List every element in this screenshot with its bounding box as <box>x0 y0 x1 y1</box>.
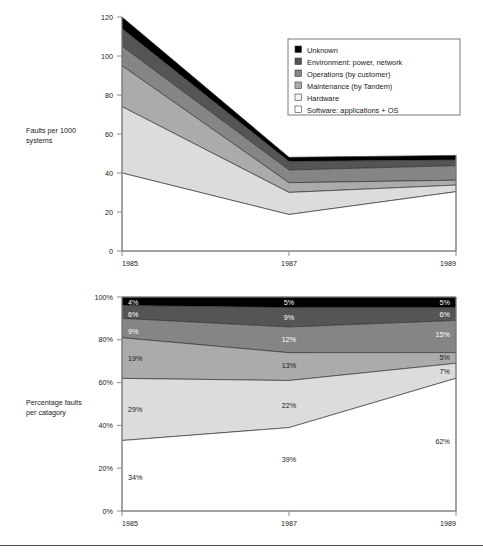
legend-swatch-unknown <box>295 46 302 53</box>
bottom-chart-x-ticks: 1985 1987 1989 <box>122 519 456 528</box>
ytick-label: 80% <box>99 335 114 344</box>
data-label-unknown-1987: 5% <box>284 298 295 307</box>
top-chart-x-ticks: 1985 1987 1989 <box>122 259 456 268</box>
legend-swatch-operations <box>295 70 302 77</box>
legend: Unknown Environment: power, network Oper… <box>288 39 460 115</box>
legend-label-software: Software: applications + OS <box>307 106 398 115</box>
data-label-maintenance-1985: 19% <box>128 354 143 363</box>
ytick-label: 40 <box>105 169 113 178</box>
data-label-unknown-1989: 5% <box>440 298 451 307</box>
xtick-label: 1985 <box>122 519 138 528</box>
legend-label-maintenance: Maintenance (by Tandem) <box>307 82 392 91</box>
bottom-chart-y-axis-label: Percentage faults per catagory <box>26 398 110 417</box>
figure-page: Faults per 1000 systems <box>0 0 483 554</box>
ytick-label: 60 <box>105 130 113 139</box>
legend-label-unknown: Unknown <box>307 46 338 55</box>
data-label-hardware-1985: 29% <box>128 405 143 414</box>
data-label-hardware-1989: 7% <box>440 367 451 376</box>
ytick-label: 80 <box>105 91 113 100</box>
xtick-label: 1987 <box>281 519 297 528</box>
legend-swatch-environment <box>295 58 302 65</box>
data-label-operations-1985: 9% <box>128 327 139 336</box>
data-label-software-1987: 39% <box>282 455 297 464</box>
ytick-label: 20% <box>99 464 114 473</box>
xtick-label: 1985 <box>122 259 138 268</box>
ytick-label: 100 <box>101 52 113 61</box>
legend-swatch-maintenance <box>295 82 302 89</box>
legend-label-operations: Operations (by customer) <box>307 70 390 79</box>
ytick-label: 20 <box>105 208 113 217</box>
percentage-faults-per-catagory-chart: Percentage faults per catagory <box>0 284 483 534</box>
data-label-environment-1985: 6% <box>128 310 139 319</box>
top-chart-y-axis-label: Faults per 1000 systems <box>26 126 104 145</box>
ytick-label: 40% <box>99 421 114 430</box>
data-label-unknown-1985: 4% <box>128 298 139 307</box>
data-label-environment-1987: 9% <box>284 313 295 322</box>
ytick-label: 100% <box>95 293 114 302</box>
legend-label-hardware: Hardware <box>307 94 339 103</box>
faults-per-1000-systems-chart: Faults per 1000 systems <box>0 0 483 284</box>
xtick-label: 1987 <box>281 259 297 268</box>
data-label-hardware-1987: 22% <box>282 401 297 410</box>
xtick-label: 1989 <box>440 519 456 528</box>
data-label-software-1989: 62% <box>436 437 451 446</box>
footer-divider <box>0 545 483 546</box>
xtick-label: 1989 <box>440 259 456 268</box>
legend-swatch-hardware <box>295 94 302 101</box>
data-label-software-1985: 34% <box>128 473 143 482</box>
data-label-maintenance-1987: 13% <box>282 361 297 370</box>
ytick-label: 0 <box>109 247 113 256</box>
legend-label-environment: Environment: power, network <box>307 58 403 67</box>
data-label-maintenance-1989: 5% <box>440 353 451 362</box>
ytick-label: 120 <box>101 13 113 22</box>
ytick-label: 0% <box>103 507 114 516</box>
legend-swatch-software <box>295 106 302 113</box>
data-label-operations-1987: 12% <box>282 335 297 344</box>
ytick-label: 60% <box>99 378 114 387</box>
data-label-operations-1989: 15% <box>436 330 451 339</box>
data-label-environment-1989: 6% <box>440 310 451 319</box>
